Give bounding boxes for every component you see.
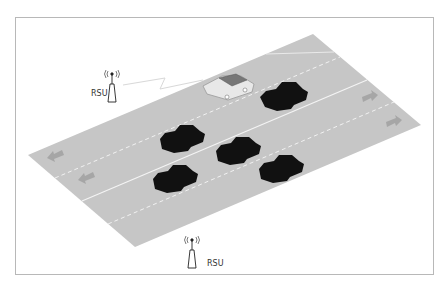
rsu-antenna-icon	[185, 236, 200, 268]
rsu-label-top: RSU	[91, 89, 108, 98]
highway-diagram	[0, 0, 448, 285]
rsu-label-bottom: RSU	[207, 259, 224, 268]
